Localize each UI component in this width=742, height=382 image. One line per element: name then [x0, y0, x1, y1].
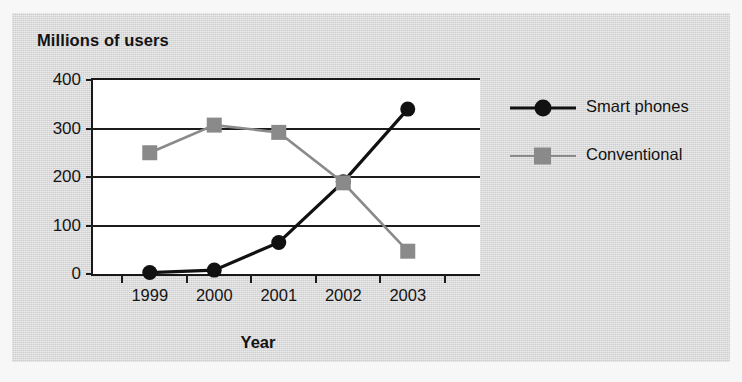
data-point-square-marker: [400, 244, 415, 259]
x-axis-title: Year: [241, 333, 276, 352]
legend-item-label: Conventional: [586, 145, 682, 164]
x-axis-tick: [250, 274, 252, 283]
x-axis-tick-label: 2002: [325, 286, 362, 305]
data-point-circle-marker: [142, 265, 157, 280]
x-axis-tick: [444, 274, 446, 283]
y-axis-tick: [86, 128, 93, 130]
y-axis-tick-label: 200: [53, 167, 81, 187]
legend-item[interactable]: Smart phones: [510, 85, 725, 133]
x-axis-tick: [379, 274, 381, 283]
gridline: [93, 128, 480, 130]
legend-item-label: Smart phones: [586, 97, 689, 116]
chart-title: Millions of users: [37, 31, 169, 50]
data-point-square-marker: [207, 118, 222, 133]
x-axis-line: [91, 274, 480, 276]
series-line: [150, 109, 408, 272]
y-axis-tick: [86, 176, 93, 178]
x-axis-tick-label: 2001: [260, 286, 297, 305]
chart-legend: Smart phonesConventional: [510, 85, 725, 181]
y-axis-tick-label: 100: [53, 216, 81, 236]
legend-item[interactable]: Conventional: [510, 133, 725, 181]
data-point-circle-marker: [400, 102, 415, 117]
x-axis-tick: [315, 274, 317, 283]
chart-panel: Millions of users 0100200300400 19992000…: [12, 13, 730, 362]
x-axis-tick-label: 2000: [196, 286, 233, 305]
x-axis-tick: [186, 274, 188, 283]
data-point-square-marker: [142, 145, 157, 160]
x-axis-tick: [121, 274, 123, 283]
legend-circle-marker-icon: [510, 97, 576, 119]
chart-figure: Millions of users 0100200300400 19992000…: [0, 0, 742, 382]
gridline: [93, 176, 480, 178]
y-axis-tick-label: 400: [53, 70, 81, 90]
series-line: [150, 125, 408, 251]
gridline: [93, 225, 480, 227]
y-axis-tick-label: 0: [72, 264, 81, 284]
x-axis-tick-label: 1999: [131, 286, 168, 305]
data-point-circle-marker: [271, 235, 286, 250]
legend-square-marker-icon: [510, 145, 576, 167]
y-axis-tick: [86, 225, 93, 227]
series-conventional: [142, 118, 415, 259]
y-axis-tick: [86, 79, 93, 81]
plot-area: 0100200300400 19992000200120022003: [91, 78, 480, 274]
y-axis-tick-label: 300: [53, 119, 81, 139]
x-axis-tick-label: 2003: [389, 286, 426, 305]
